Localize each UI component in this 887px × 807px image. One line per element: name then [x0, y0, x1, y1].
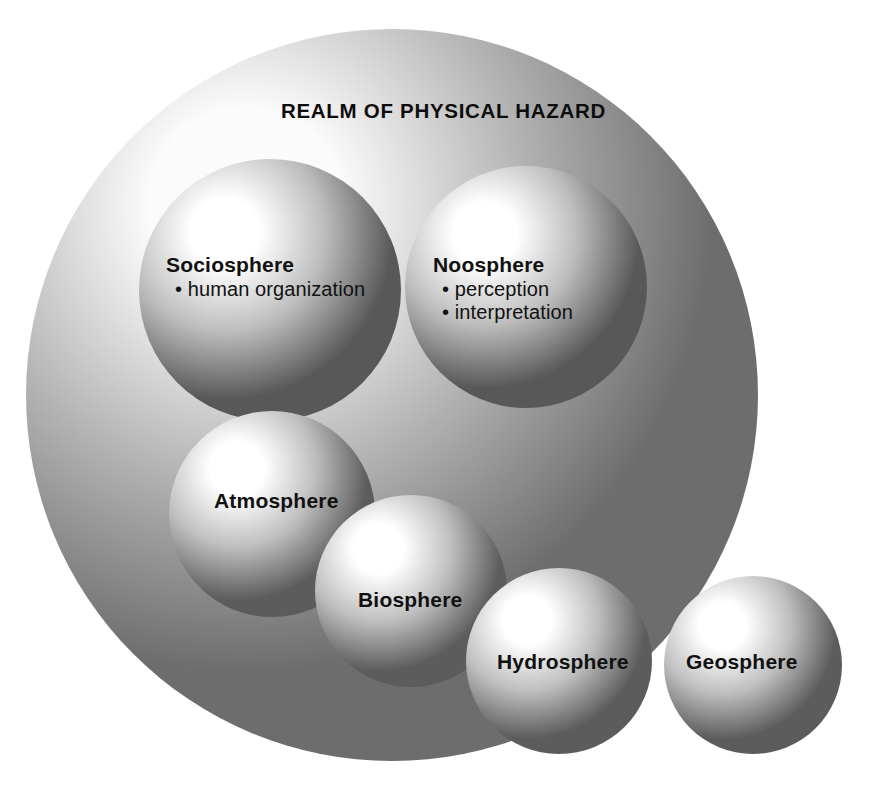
- noosphere-bullet-perception: • perception: [433, 278, 573, 302]
- noosphere-bullet-interpretation: • interpretation: [433, 301, 573, 325]
- sociosphere-label: Sociosphere • human organization: [166, 253, 365, 301]
- geosphere-label: Geosphere: [686, 650, 798, 675]
- noosphere-title: Noosphere: [433, 253, 573, 278]
- noosphere-label: Noosphere • perception • interpretation: [433, 253, 573, 325]
- hydrosphere-label: Hydrosphere: [497, 650, 629, 675]
- figure-realm-of-physical-hazard: REALM OF PHYSICAL HAZARD Sociosphere • h…: [0, 0, 887, 807]
- atmosphere-title: Atmosphere: [214, 489, 339, 514]
- atmosphere-label: Atmosphere: [214, 489, 339, 514]
- biosphere-label: Biosphere: [358, 588, 463, 613]
- geosphere-title: Geosphere: [686, 650, 798, 675]
- biosphere-title: Biosphere: [358, 588, 463, 613]
- sociosphere-title: Sociosphere: [166, 253, 365, 278]
- sphere-diagram-canvas: [0, 0, 887, 807]
- sociosphere-bullet-human-organization: • human organization: [166, 278, 365, 302]
- hydrosphere-title: Hydrosphere: [497, 650, 629, 675]
